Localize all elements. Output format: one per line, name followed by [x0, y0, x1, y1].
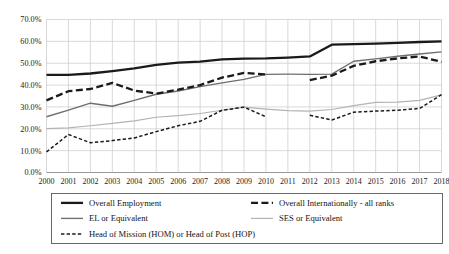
x-tick-label: 2012 — [302, 177, 318, 186]
legend-label: Head of Mission (HOM) or Head of Post (H… — [89, 229, 255, 239]
legend-label: Overall Internationally - all ranks — [279, 198, 395, 208]
y-tick-label: 10.0% — [20, 147, 41, 156]
x-tick-label: 2007 — [192, 177, 208, 186]
x-tick-label: 2009 — [236, 177, 252, 186]
x-tick-label: 2005 — [148, 177, 164, 186]
x-tick-label: 2008 — [214, 177, 230, 186]
legend-item-head-of-mission-hom-or-head-of-post-hop[interactable]: Head of Mission (HOM) or Head of Post (H… — [61, 229, 255, 239]
x-tick-label: 2011 — [280, 177, 296, 186]
chart-legend: Overall EmploymentOverall Internationall… — [52, 194, 443, 244]
legend-label: SES or Equivalent — [279, 213, 343, 223]
y-tick-label: 50.0% — [20, 59, 41, 68]
y-tick-label: 70.0% — [20, 15, 41, 24]
x-tick-label: 2000 — [39, 177, 55, 186]
line-chart: 0.0%10.0%20.0%30.0%40.0%50.0%60.0%70.0% … — [0, 0, 449, 254]
y-tick-label: 60.0% — [20, 37, 41, 46]
y-tick-label: 30.0% — [20, 103, 41, 112]
x-tick-label: 2016 — [390, 177, 406, 186]
x-tick-label: 2006 — [170, 177, 186, 186]
x-tick-label: 2015 — [368, 177, 384, 186]
x-tick-label: 2014 — [346, 177, 362, 186]
legend-label: Overall Employment — [89, 198, 162, 208]
x-tick-label: 2004 — [126, 177, 142, 186]
y-tick-label: 40.0% — [20, 81, 41, 90]
legend-label: EL or Equivalent — [89, 213, 148, 223]
x-tick-label: 2018 — [434, 177, 449, 186]
x-tick-label: 2017 — [412, 177, 428, 186]
x-tick-label: 2002 — [82, 177, 98, 186]
x-tick-label: 2003 — [104, 177, 120, 186]
x-tick-label: 2013 — [324, 177, 340, 186]
chart-container: 0.0%10.0%20.0%30.0%40.0%50.0%60.0%70.0% … — [0, 0, 449, 254]
x-tick-label: 2010 — [258, 177, 274, 186]
x-tick-label: 2001 — [60, 177, 76, 186]
y-tick-label: 20.0% — [20, 125, 41, 134]
